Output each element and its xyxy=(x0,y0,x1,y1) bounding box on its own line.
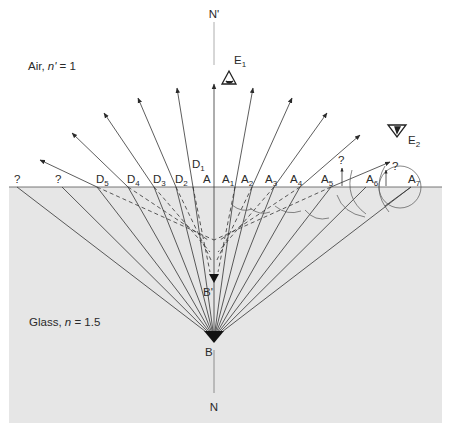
question-mark-left-1: ? xyxy=(55,173,61,185)
question-mark-left-2: ? xyxy=(14,173,20,185)
point-d5-label: D5 xyxy=(96,173,109,188)
point-a4-label: A4 xyxy=(290,173,303,188)
point-a-label: A xyxy=(203,173,211,185)
point-a1-label: A1 xyxy=(222,173,235,188)
eye-2-icon xyxy=(388,125,406,137)
refraction-diagram: N' N Air, n' = 1 Glass, n = 1.5 B B' E1 … xyxy=(0,0,450,433)
air-label: Air, n' = 1 xyxy=(28,60,76,72)
point-a3-label: A3 xyxy=(265,173,278,188)
normal-top-label: N' xyxy=(209,8,220,20)
point-a6-label: A6 xyxy=(366,173,379,188)
point-d4-label: D4 xyxy=(127,173,140,188)
eye-2-label: E2 xyxy=(408,134,421,149)
point-d1-label: D1 xyxy=(192,158,205,173)
glass-label: Glass, n = 1.5 xyxy=(29,316,100,328)
point-d3-label: D3 xyxy=(153,173,166,188)
image-b-prime-label: B' xyxy=(203,286,213,298)
question-mark-a5: ? xyxy=(338,154,344,166)
rays-in-air xyxy=(40,84,390,187)
point-a2-label: A2 xyxy=(241,173,254,188)
point-a5-label: A5 xyxy=(321,173,334,188)
eye-1-label: E1 xyxy=(234,54,247,69)
eye-1-icon xyxy=(222,71,236,84)
glass-region xyxy=(9,187,442,423)
point-a7-label: A7 xyxy=(408,173,421,188)
point-d2-label: D2 xyxy=(175,173,188,188)
normal-bottom-label: N xyxy=(210,401,218,413)
question-mark-a6: ? xyxy=(392,160,398,172)
object-b-label: B xyxy=(205,346,213,358)
